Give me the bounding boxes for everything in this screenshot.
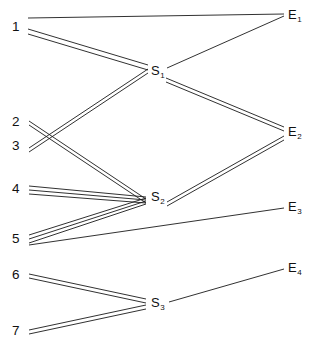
middle-node-s1-base: S (151, 63, 160, 78)
source-node-6: 6 (12, 268, 20, 282)
end-node-e1-subscript: 1 (297, 15, 302, 24)
end-node-e4: E4 (288, 261, 302, 274)
edge-3-to-S1 (29, 69, 148, 152)
source-node-7: 7 (12, 324, 20, 338)
source-node-5-label: 5 (12, 231, 20, 246)
source-node-7-label: 7 (12, 323, 20, 338)
source-node-2: 2 (12, 115, 20, 129)
end-node-e2-subscript: 2 (297, 132, 302, 141)
edge-6-to-S3 (29, 274, 146, 303)
end-node-e2: E2 (288, 125, 302, 138)
source-node-5: 5 (12, 232, 20, 246)
network-diagram: 1 2 3 4 5 6 7 S1 S2 S3 E1 E2 E3 E4 (0, 0, 316, 350)
source-node-4: 4 (12, 182, 20, 196)
edge-1-to-S1 (28, 29, 148, 70)
middle-node-s1-subscript: 1 (160, 71, 165, 80)
end-node-e2-base: E (288, 124, 297, 139)
middle-node-s2-subscript: 2 (160, 197, 165, 206)
source-node-1: 1 (12, 20, 20, 34)
middle-node-s3-subscript: 3 (160, 303, 165, 312)
middle-node-s2: S2 (151, 190, 165, 203)
middle-node-s3: S3 (151, 296, 165, 309)
end-node-e1-base: E (288, 7, 297, 22)
middle-node-s1: S1 (151, 64, 165, 77)
end-node-e1: E1 (288, 8, 302, 21)
edge-S1-to-E2 (166, 78, 284, 131)
edge-S2-to-E2 (167, 136, 284, 206)
edge-S1-to-E1 (167, 16, 284, 68)
edge-1-to-E1 (28, 14, 284, 18)
edge-7-to-S3 (29, 305, 146, 334)
middle-node-s3-base: S (151, 295, 160, 310)
end-node-e4-base: E (288, 260, 297, 275)
middle-node-s2-base: S (151, 189, 160, 204)
end-node-e3: E3 (288, 200, 302, 213)
edge-2-to-S2 (29, 121, 146, 203)
edge-S3-to-E4 (169, 269, 284, 302)
source-node-3-label: 3 (12, 138, 20, 153)
end-node-e3-subscript: 3 (297, 207, 302, 216)
end-node-e3-base: E (288, 199, 297, 214)
end-node-e4-subscript: 4 (297, 268, 302, 277)
source-node-1-label: 1 (12, 19, 20, 34)
source-node-4-label: 4 (12, 181, 20, 196)
source-node-6-label: 6 (12, 267, 20, 282)
edge-4-to-S2 (29, 186, 146, 203)
source-node-3: 3 (12, 139, 20, 153)
source-node-2-label: 2 (12, 114, 20, 129)
